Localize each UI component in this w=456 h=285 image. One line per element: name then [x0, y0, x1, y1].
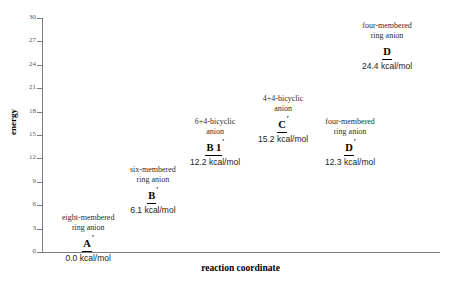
y-axis-tick-label: 12: [12, 154, 36, 161]
data-point-marker-wrap: B 1′: [190, 137, 240, 155]
y-axis-tick-mark: [37, 18, 42, 19]
data-point-marker-prime: ′: [222, 138, 224, 147]
data-point-marker-prime: ′: [287, 115, 289, 124]
data-point-name-line1: four-membered: [362, 21, 412, 31]
data-point-marker-letter: A: [82, 238, 92, 251]
data-point-marker-wrap: A′: [62, 233, 114, 251]
data-point-name-line1: 6+4-bicyclic: [190, 117, 240, 127]
data-point-marker-letter: C: [277, 119, 287, 132]
data-point-name-line1: 4+4-bicyclic: [258, 94, 308, 104]
data-point-name-line1: six-membered: [130, 165, 176, 175]
data-point-marker-wrap: D: [362, 41, 412, 59]
data-point-name-line2: ring anion: [362, 31, 412, 41]
y-axis-tick-mark: [37, 135, 42, 136]
y-axis-line: [42, 18, 43, 253]
y-axis-tick-label: 24: [12, 61, 36, 68]
data-point-name-line2: ring anion: [325, 127, 375, 137]
data-point-name-line2: anion: [190, 127, 240, 137]
data-point-b: six-memberedring anionB′6.1 kcal/mol: [130, 165, 176, 216]
y-axis-tick-label: 21: [12, 84, 36, 91]
y-axis-tick-label: 3: [12, 225, 36, 232]
y-axis-tick-label: 0: [12, 248, 36, 255]
data-point-name-line2: ring anion: [62, 223, 114, 233]
y-axis-tick-label: 27: [12, 37, 36, 44]
data-point-value-label: 15.2 kcal/mol: [258, 133, 308, 146]
y-axis-tick-mark: [37, 65, 42, 66]
data-point-name-line1: four-membered: [325, 117, 375, 127]
data-point-value-label: 12.2 kcal/mol: [190, 156, 240, 169]
x-axis-title: reaction coordinate: [168, 263, 313, 273]
y-axis-tick-label: 9: [12, 178, 36, 185]
data-point-value-label: 6.1 kcal/mol: [130, 204, 176, 217]
data-point-d: four-memberedring anionD24.4 kcal/mol: [362, 21, 412, 72]
data-point-c: 4+4-bicyclicanionC′15.2 kcal/mol: [258, 94, 308, 145]
data-point-marker-letter: D: [382, 46, 392, 59]
data-point-marker-letter: D: [344, 142, 354, 155]
data-point-b1: 6+4-bicyclicanionB 1′12.2 kcal/mol: [190, 117, 240, 168]
data-point-marker-wrap: C′: [258, 114, 308, 132]
y-axis-tick-mark: [37, 205, 42, 206]
y-axis-tick-mark: [37, 252, 42, 253]
data-point-marker-wrap: D′: [325, 137, 375, 155]
y-axis-tick-mark: [37, 229, 42, 230]
data-point-name-line2: anion: [258, 104, 308, 114]
energy-diagram-chart: 302724211815129630 energy reaction coord…: [0, 0, 456, 285]
data-point-value-label: 12.3 kcal/mol: [325, 156, 375, 169]
data-point-marker-prime: ′: [354, 138, 356, 147]
data-point-a: eight-memberedring anionA′0.0 kcal/mol: [62, 213, 114, 264]
y-axis-tick-mark: [37, 112, 42, 113]
data-point-marker-wrap: B′: [130, 185, 176, 203]
data-point-marker-prime: ′: [92, 234, 94, 243]
y-axis-tick-mark: [37, 41, 42, 42]
y-axis-tick-mark: [37, 182, 42, 183]
plot-area: 302724211815129630 energy reaction coord…: [0, 0, 456, 285]
y-axis-tick-mark: [37, 88, 42, 89]
y-axis-tick-mark: [37, 158, 42, 159]
y-axis-title: energy: [8, 92, 18, 152]
data-point-marker-letter: B: [147, 190, 156, 203]
y-axis-tick-label: 6: [12, 201, 36, 208]
data-point-name-line1: eight-membered: [62, 213, 114, 223]
data-point-d-prime: four-memberedring anionD′12.3 kcal/mol: [325, 117, 375, 168]
data-point-name-line2: ring anion: [130, 175, 176, 185]
data-point-value-label: 0.0 kcal/mol: [62, 252, 114, 265]
data-point-marker-prime: ′: [156, 186, 158, 195]
data-point-value-label: 24.4 kcal/mol: [362, 60, 412, 73]
data-point-marker-letter: B 1: [205, 142, 222, 155]
y-axis-tick-label: 30: [12, 14, 36, 21]
